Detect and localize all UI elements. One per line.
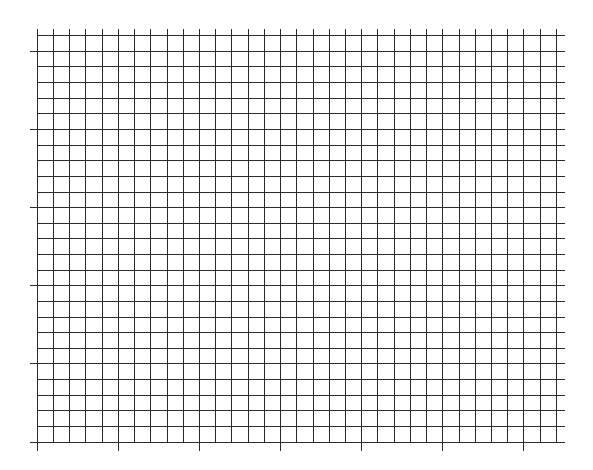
y-axis-major-ticks	[30, 52, 38, 443]
horizontal-grid-lines	[38, 36, 566, 443]
vertical-grid-lines	[38, 29, 557, 443]
empty-grid-chart	[0, 0, 593, 470]
x-axis-major-ticks	[38, 443, 524, 451]
